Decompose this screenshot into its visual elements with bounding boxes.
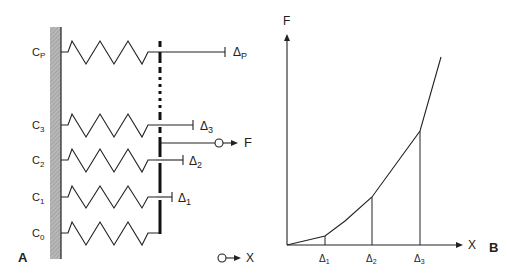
displacement-label: X: [246, 251, 254, 265]
panel-a: CP C3 C2 C1 C0: [18, 27, 254, 265]
spring-label-c1: C1: [32, 191, 45, 206]
x-axis-label: X: [468, 238, 476, 252]
panel-a-label: A: [18, 250, 28, 265]
force-label: F: [244, 135, 252, 150]
displacement-arrow: [218, 254, 241, 262]
force-displacement-curve: [287, 57, 441, 245]
spring-c1: [61, 186, 156, 208]
x-tick-delta-3: Δ3: [414, 253, 425, 265]
panel-b-label: B: [489, 240, 498, 255]
x-tick-delta-2: Δ2: [366, 253, 377, 265]
spring-label-c2: C2: [32, 154, 45, 169]
x-tick-delta-1: Δ1: [319, 253, 330, 265]
spring-c3: [61, 114, 160, 137]
spring-c0: [61, 222, 160, 245]
y-axis-label: F: [283, 14, 290, 28]
delta-2-label: Δ2: [189, 154, 202, 170]
fixed-wall: [50, 27, 61, 259]
delta-1-label: Δ1: [178, 191, 191, 207]
force-arrow: [161, 139, 238, 147]
panel-b: F X Δ1 Δ2 Δ3 B: [283, 14, 498, 265]
spring-label-cp: CP: [32, 46, 45, 60]
spring-label-c3: C3: [32, 119, 45, 134]
spring-label-c0: C0: [32, 227, 45, 242]
spring-model-figure: CP C3 C2 C1 C0: [0, 0, 508, 277]
delta-3-label: Δ3: [200, 119, 213, 135]
spring-cp: [61, 41, 160, 64]
delta-p-label: ΔP: [233, 45, 247, 61]
spring-c2: [61, 149, 156, 172]
